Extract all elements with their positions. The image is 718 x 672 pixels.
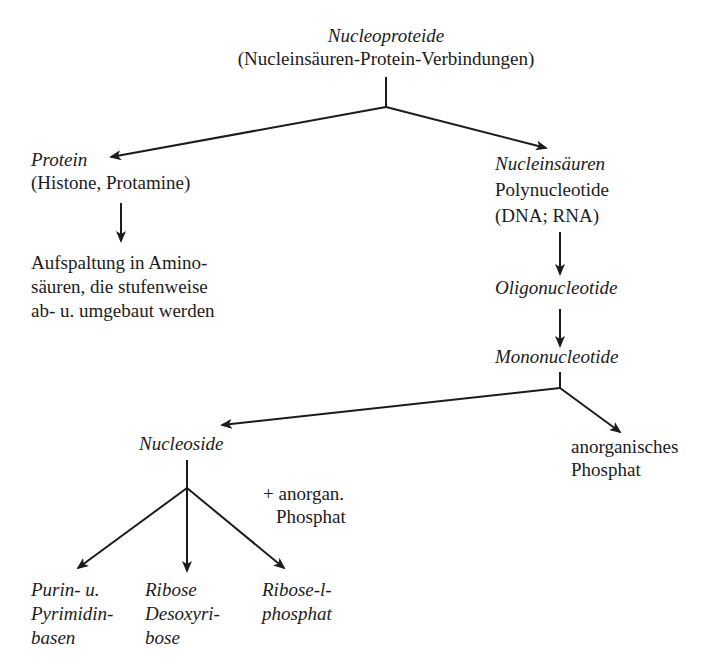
node-nucleic-acids: Nucleinsäuren Polynucleotide (DNA; RNA) <box>495 151 609 229</box>
nucleic-acids-line3: (DNA; RNA) <box>495 203 609 229</box>
node-amino-acid-breakdown: Aufspaltung in Amino- säuren, die stufen… <box>31 251 215 323</box>
arrow-to-nucleic-acids <box>386 107 546 148</box>
node-ribose-1-phosphate: Ribose-l- phosphat <box>262 578 332 626</box>
arrow-to-bases <box>78 488 187 568</box>
protein-subtitle: (Histone, Protamine) <box>31 171 190 194</box>
inorganic-line-2: Phosphat <box>571 458 678 481</box>
arrow-to-inorganic-phosphate <box>560 388 620 432</box>
arrow-layer <box>0 0 718 672</box>
ribose-line-3: bose <box>145 626 220 650</box>
protein-title: Protein <box>31 148 190 171</box>
nucleoside-phosphate-note: + anorgan. Phosphat <box>263 482 346 528</box>
ribose-phosphate-line-1: Ribose-l- <box>262 578 332 602</box>
inorganic-line-1: anorganisches <box>571 435 678 458</box>
bases-line-1: Purin- u. <box>31 578 113 602</box>
bases-line-3: basen <box>31 626 113 650</box>
bases-line-2: Pyrimidin- <box>31 602 113 626</box>
amino-line-2: säuren, die stufenweise <box>31 275 215 299</box>
ribose-phosphate-line-2: phosphat <box>262 602 332 626</box>
node-ribose-deoxyribose: Ribose Desoxyri- bose <box>145 578 220 650</box>
ribose-line-1: Ribose <box>145 578 220 602</box>
amino-line-3: ab- u. umgebaut werden <box>31 299 215 323</box>
arrow-to-nucleoside <box>222 388 560 425</box>
node-nucleoside: Nucleoside <box>139 432 223 455</box>
node-protein: Protein (Histone, Protamine) <box>31 148 190 194</box>
node-nucleoproteide: Nucleoproteide (Nucleinsäuren-Protein-Ve… <box>226 24 546 70</box>
note-line-2: Phosphat <box>263 505 346 528</box>
nucleic-acids-line2: Polynucleotide <box>495 177 609 203</box>
node-inorganic-phosphate: anorganisches Phosphat <box>571 435 678 481</box>
node-purine-pyrimidine-bases: Purin- u. Pyrimidin- basen <box>31 578 113 650</box>
nucleic-acids-title: Nucleinsäuren <box>495 151 609 177</box>
amino-line-1: Aufspaltung in Amino- <box>31 251 215 275</box>
node-mononucleotide: Mononucleotide <box>495 345 618 368</box>
root-title: Nucleoproteide <box>226 24 546 47</box>
node-oligonucleotide: Oligonucleotide <box>495 276 617 299</box>
ribose-line-2: Desoxyri- <box>145 602 220 626</box>
note-line-1: + anorgan. <box>263 482 346 505</box>
root-subtitle: (Nucleinsäuren-Protein-Verbindungen) <box>226 47 546 70</box>
